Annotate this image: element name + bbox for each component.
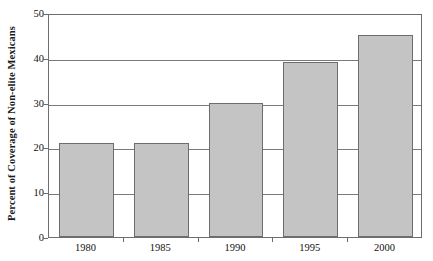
y-axis-tick-label: 40 xyxy=(22,54,44,65)
y-axis-tick-label: 10 xyxy=(22,188,44,199)
bar xyxy=(283,62,338,237)
y-axis-tick-labels: 01020304050 xyxy=(20,0,44,261)
y-axis-tick-label: 30 xyxy=(22,98,44,109)
y-axis-title: Percent of Coverage of Non-elite Mexican… xyxy=(0,0,22,247)
x-axis-tick-label: 1990 xyxy=(225,242,246,253)
y-axis-tick-label: 0 xyxy=(22,233,44,244)
bar xyxy=(134,143,189,237)
x-axis-tick-label: 1980 xyxy=(75,242,96,253)
y-axis-title-text: Percent of Coverage of Non-elite Mexican… xyxy=(6,26,17,221)
chart-screenshot: Percent of Coverage of Non-elite Mexican… xyxy=(0,0,433,261)
x-axis-tick-label: 1985 xyxy=(150,242,171,253)
plot-area xyxy=(48,14,422,238)
y-axis-tick-label: 50 xyxy=(22,9,44,20)
x-axis-tick-labels: 19801985199019952000 xyxy=(48,242,422,258)
bar xyxy=(59,143,114,237)
bar xyxy=(358,35,413,237)
bar xyxy=(209,103,264,237)
bars-group xyxy=(49,15,421,237)
y-axis-tick-label: 20 xyxy=(22,143,44,154)
x-axis-tick-label: 1995 xyxy=(299,242,320,253)
x-axis-tick-label: 2000 xyxy=(374,242,395,253)
